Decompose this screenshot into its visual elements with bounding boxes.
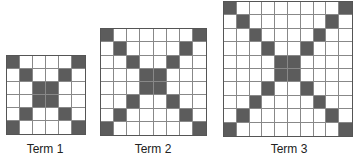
shaded-tile xyxy=(193,122,206,135)
white-tile xyxy=(314,15,327,28)
white-tile xyxy=(250,56,263,69)
white-tile xyxy=(114,95,127,108)
white-tile xyxy=(339,42,352,55)
white-tile xyxy=(193,56,206,69)
white-tile xyxy=(262,2,275,15)
white-tile xyxy=(140,29,153,42)
shaded-tile xyxy=(140,82,153,95)
term-2-label: Term 2 xyxy=(135,142,172,156)
shaded-tile xyxy=(114,109,127,122)
white-tile xyxy=(301,56,314,69)
white-tile xyxy=(7,69,20,82)
white-tile xyxy=(275,15,288,28)
shaded-tile xyxy=(262,82,275,95)
white-tile xyxy=(101,42,114,55)
white-tile xyxy=(33,108,46,121)
white-tile xyxy=(167,42,180,55)
white-tile xyxy=(72,82,85,95)
shaded-tile xyxy=(46,82,59,95)
white-tile xyxy=(224,29,237,42)
white-tile xyxy=(326,96,339,109)
white-tile xyxy=(339,109,352,122)
white-tile xyxy=(127,109,140,122)
white-tile xyxy=(224,56,237,69)
white-tile xyxy=(167,82,180,95)
white-tile xyxy=(154,56,167,69)
shaded-tile xyxy=(180,109,193,122)
white-tile xyxy=(326,82,339,95)
white-tile xyxy=(180,29,193,42)
white-tile xyxy=(114,69,127,82)
white-tile xyxy=(193,109,206,122)
white-tile xyxy=(262,123,275,136)
white-tile xyxy=(167,122,180,135)
white-tile xyxy=(262,56,275,69)
white-tile xyxy=(326,42,339,55)
white-tile xyxy=(140,122,153,135)
white-tile xyxy=(275,123,288,136)
shaded-tile xyxy=(288,56,301,69)
white-tile xyxy=(127,82,140,95)
white-tile xyxy=(114,56,127,69)
white-tile xyxy=(114,29,127,42)
term-2-grid xyxy=(100,28,207,136)
white-tile xyxy=(20,121,33,134)
white-tile xyxy=(262,29,275,42)
white-tile xyxy=(140,109,153,122)
white-tile xyxy=(180,95,193,108)
white-tile xyxy=(326,29,339,42)
white-tile xyxy=(262,96,275,109)
white-tile xyxy=(154,29,167,42)
white-tile xyxy=(326,2,339,15)
white-tile xyxy=(193,82,206,95)
white-tile xyxy=(127,42,140,55)
white-tile xyxy=(224,82,237,95)
white-tile xyxy=(193,42,206,55)
white-tile xyxy=(237,69,250,82)
white-tile xyxy=(46,121,59,134)
white-tile xyxy=(339,29,352,42)
shaded-tile xyxy=(237,109,250,122)
shaded-tile xyxy=(314,29,327,42)
white-tile xyxy=(301,2,314,15)
white-tile xyxy=(127,69,140,82)
term-3-grid xyxy=(223,1,353,137)
white-tile xyxy=(224,109,237,122)
white-tile xyxy=(180,56,193,69)
white-tile xyxy=(250,109,263,122)
shaded-tile xyxy=(20,69,33,82)
shaded-tile xyxy=(326,109,339,122)
shaded-tile xyxy=(339,123,352,136)
white-tile xyxy=(262,109,275,122)
white-tile xyxy=(301,96,314,109)
white-tile xyxy=(224,96,237,109)
shaded-tile xyxy=(262,42,275,55)
white-tile xyxy=(127,29,140,42)
shaded-tile xyxy=(72,121,85,134)
white-tile xyxy=(59,82,72,95)
shaded-tile xyxy=(7,121,20,134)
white-tile xyxy=(275,82,288,95)
white-tile xyxy=(167,29,180,42)
white-tile xyxy=(314,56,327,69)
white-tile xyxy=(326,56,339,69)
shaded-tile xyxy=(301,42,314,55)
white-tile xyxy=(224,42,237,55)
shaded-tile xyxy=(7,56,20,69)
white-tile xyxy=(301,15,314,28)
shaded-tile xyxy=(101,122,114,135)
white-tile xyxy=(7,82,20,95)
shaded-tile xyxy=(193,29,206,42)
shaded-tile xyxy=(154,69,167,82)
white-tile xyxy=(72,108,85,121)
shaded-tile xyxy=(59,69,72,82)
shaded-tile xyxy=(250,29,263,42)
shaded-tile xyxy=(33,95,46,108)
white-tile xyxy=(339,56,352,69)
term-1-grid xyxy=(6,55,86,135)
white-tile xyxy=(262,69,275,82)
shaded-tile xyxy=(72,56,85,69)
white-tile xyxy=(20,95,33,108)
shaded-tile xyxy=(224,123,237,136)
white-tile xyxy=(127,122,140,135)
